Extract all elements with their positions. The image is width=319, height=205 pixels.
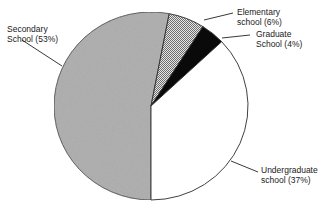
label-undergraduate: Undergraduate school (37%) [261, 166, 318, 185]
label-undergraduate-line2: school (37%) [261, 176, 318, 186]
label-graduate: Graduate School (4%) [256, 30, 302, 49]
leader-line-elementary [204, 13, 233, 20]
label-elementary: Elementary school (6%) [237, 8, 282, 27]
label-secondary-line2: School (53%) [7, 35, 58, 45]
label-secondary: Secondary School (53%) [7, 25, 58, 44]
pie-slices [54, 12, 248, 200]
label-elementary-line2: school (6%) [237, 18, 282, 28]
leader-line-graduate [222, 35, 250, 38]
label-graduate-line2: School (4%) [256, 40, 302, 50]
leader-line-undergraduate [231, 161, 258, 172]
